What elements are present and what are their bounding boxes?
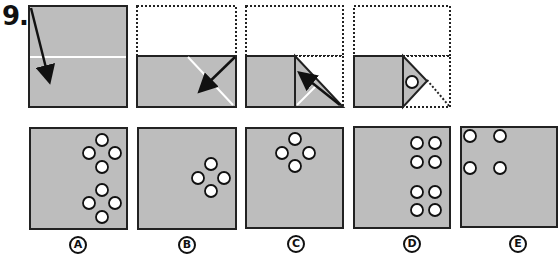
option-e-figure[interactable] [461,127,557,227]
option-c-label[interactable]: C [287,235,305,253]
option-d-label[interactable]: D [403,235,421,253]
option-e-label[interactable]: E [509,235,527,253]
fold-step-2 [137,6,236,107]
puzzle-figure [0,0,558,256]
option-a-label[interactable]: A [69,236,87,254]
fold-step-1 [29,6,127,107]
option-d-figure[interactable] [354,127,450,228]
fold-step-3 [246,6,343,107]
fold-step-4 [354,6,450,107]
option-c-figure[interactable] [246,128,343,228]
punched-hole-icon [406,76,418,88]
option-a-figure[interactable] [30,128,127,229]
option-b-figure[interactable] [138,128,236,229]
option-b-label[interactable]: B [178,236,196,254]
